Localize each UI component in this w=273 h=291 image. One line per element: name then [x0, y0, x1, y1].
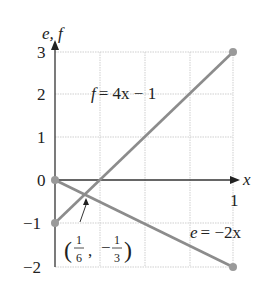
svg-text:6: 6	[76, 251, 82, 265]
y-tick-2: 2	[37, 85, 46, 104]
x-tick-1: 1	[230, 191, 239, 210]
y-tick-1: 1	[37, 128, 46, 147]
svg-text:1: 1	[114, 233, 120, 247]
y-axis-label: e, f	[42, 24, 65, 43]
annotation-arrow-head-icon	[83, 198, 89, 205]
y-tick-m1: −1	[23, 214, 41, 233]
f-equation-label: f= 4x − 1	[91, 84, 156, 103]
point-e-start	[51, 176, 59, 184]
e-equation-label: e= −2x	[190, 223, 241, 242]
y-tick-3: 3	[37, 43, 46, 62]
y-tick-0: 0	[37, 171, 46, 190]
point-e-end	[229, 263, 237, 271]
svg-text:3: 3	[114, 251, 120, 265]
intersection-annotation: ( 1 6 , − 1 3 )	[64, 233, 132, 265]
point-f-end	[229, 48, 237, 56]
x-axis-arrow-icon	[230, 176, 240, 184]
chart: 3 2 1 0 −1 −2 e, f x 1 f= 4x − 1 e= −2x …	[0, 0, 273, 291]
svg-text:): )	[124, 237, 132, 263]
svg-text:,: ,	[88, 241, 92, 260]
svg-text:−: −	[101, 238, 111, 257]
svg-text:1: 1	[76, 233, 82, 247]
y-tick-m2: −2	[23, 258, 41, 277]
point-f-start	[51, 219, 59, 227]
svg-text:(: (	[64, 237, 72, 263]
x-axis-label: x	[242, 170, 251, 189]
